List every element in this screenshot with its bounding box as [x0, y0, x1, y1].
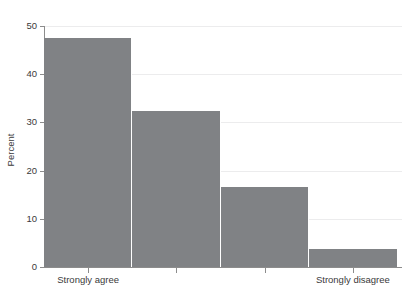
- bar-chart-figure: Percent 01020304050 Strongly agreeStrong…: [0, 0, 414, 299]
- y-axis-title: Percent: [5, 133, 16, 166]
- y-axis-tick-label: 20: [26, 166, 37, 176]
- bar: [132, 111, 220, 267]
- y-axis-tick-label: 40: [26, 69, 37, 79]
- x-axis-tick-label: Strongly disagree: [316, 275, 390, 285]
- x-axis-tick: [265, 268, 266, 273]
- bar: [309, 249, 397, 267]
- y-axis-tick-label: 50: [26, 21, 37, 31]
- page-bleed-bottom-text: [36, 291, 408, 299]
- y-axis-tick-label: 0: [32, 262, 37, 272]
- bar: [44, 38, 132, 267]
- bars-layer: [44, 0, 406, 299]
- x-axis-tick: [353, 268, 354, 273]
- y-axis-tick-label: 30: [26, 118, 37, 128]
- y-axis-tick-label: 10: [26, 214, 37, 224]
- x-axis-tick-label: Strongly agree: [57, 275, 119, 285]
- bar: [221, 187, 309, 267]
- x-axis-tick: [176, 268, 177, 273]
- x-axis-tick: [88, 268, 89, 273]
